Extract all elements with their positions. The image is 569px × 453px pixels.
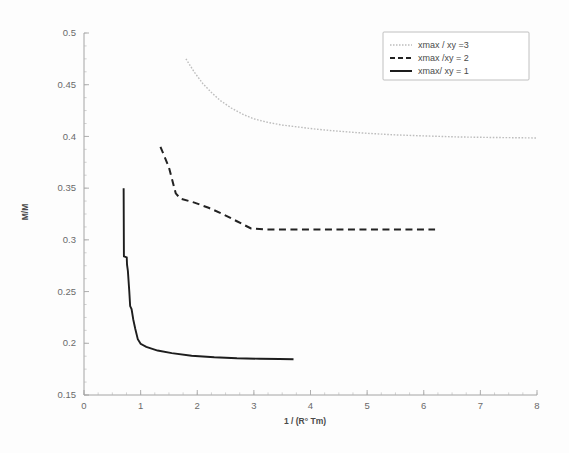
- x-tick-label: 0: [81, 400, 86, 411]
- y-axis-tick-labels: 0.150.20.250.30.350.40.450.5: [58, 27, 77, 400]
- y-tick-label: 0.3: [63, 234, 76, 245]
- data-curves: [124, 59, 537, 359]
- y-tick-label: 0.35: [58, 182, 77, 193]
- y-tick-label: 0.5: [63, 27, 76, 38]
- x-tick-label: 4: [308, 400, 313, 411]
- curve-series-2: [124, 188, 294, 359]
- x-tick-label: 7: [478, 400, 483, 411]
- y-tick-label: 0.2: [63, 337, 76, 348]
- y-tick-label: 0.45: [58, 79, 77, 90]
- x-tick-label: 1: [138, 400, 143, 411]
- x-axis-title: 1 / (R° Tm): [284, 416, 326, 426]
- x-tick-label: 3: [251, 400, 256, 411]
- legend-label-1: xmax /xy = 2: [418, 53, 469, 63]
- x-tick-label: 2: [195, 400, 200, 411]
- curve-series-1: [160, 147, 435, 230]
- tick-marks: [84, 33, 537, 395]
- chart-figure: 0.150.20.250.30.350.40.450.5 012345678 1…: [0, 0, 569, 453]
- plot-area: 0.150.20.250.30.350.40.450.5 012345678 1…: [0, 0, 569, 453]
- x-tick-label: 6: [421, 400, 426, 411]
- legend[interactable]: xmax / xy =3 xmax /xy = 2 xmax/ xy = 1: [383, 32, 529, 80]
- y-tick-label: 0.4: [63, 131, 76, 142]
- y-axis-title: M/M: [20, 204, 30, 221]
- y-tick-label: 0.15: [58, 389, 77, 400]
- axes: [84, 33, 537, 395]
- legend-label-0: xmax / xy =3: [418, 40, 469, 50]
- legend-label-2: xmax/ xy = 1: [418, 66, 469, 76]
- x-axis-tick-labels: 012345678: [81, 400, 539, 411]
- x-tick-label: 5: [364, 400, 369, 411]
- y-tick-label: 0.25: [58, 286, 77, 297]
- x-tick-label: 8: [534, 400, 539, 411]
